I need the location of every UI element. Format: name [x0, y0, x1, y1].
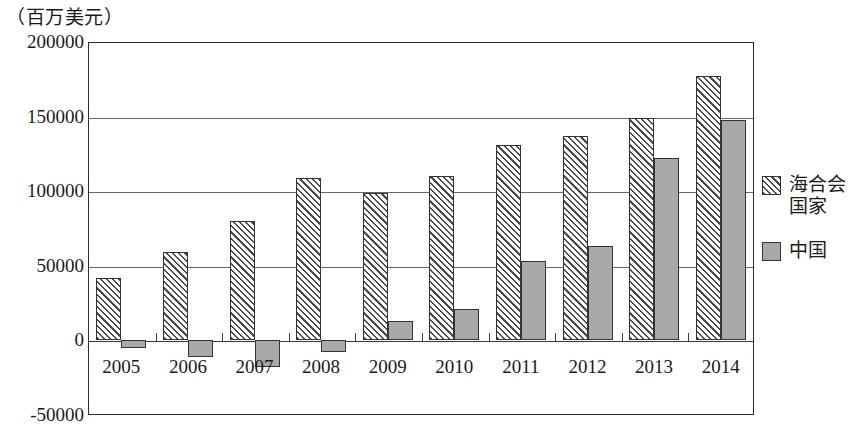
legend-swatch-gcc-icon [762, 176, 781, 195]
gridline [89, 118, 753, 119]
y-axis-tick-label: 100000 [0, 181, 84, 200]
x-axis-tick-label: 2012 [554, 357, 621, 376]
x-axis-tick-mark [289, 333, 290, 341]
zero-baseline [89, 341, 753, 342]
x-axis-tick-mark [688, 333, 689, 341]
x-axis-tick-label: 2007 [221, 357, 288, 376]
chart-legend: 海合会国家中国 [762, 174, 866, 284]
x-axis-tick-label: 2006 [155, 357, 222, 376]
x-axis-tick-label: 2013 [621, 357, 688, 376]
x-axis-tick-label: 2005 [88, 357, 155, 376]
x-axis-tick-mark [555, 333, 556, 341]
y-axis-tick-label: 150000 [0, 107, 84, 126]
legend-swatch-china-icon [762, 242, 781, 261]
x-axis-tick-label: 2009 [354, 357, 421, 376]
x-axis-tick-label: 2010 [421, 357, 488, 376]
x-axis-tick-label: 2011 [488, 357, 555, 376]
x-axis-tick-mark [422, 333, 423, 341]
y-axis-unit-title: （百万美元） [6, 2, 123, 29]
legend-entry: 中国 [762, 240, 866, 262]
x-axis-tick-label: 2008 [288, 357, 355, 376]
y-axis-tick-label: -50000 [0, 405, 84, 424]
x-axis-tick-mark [222, 333, 223, 341]
bar-chart: （百万美元） 200000150000100000500000-50000 20… [0, 0, 867, 424]
gridline [89, 192, 753, 193]
x-axis-tick-mark [622, 333, 623, 341]
x-axis-tick-mark [156, 333, 157, 341]
x-axis-tick-mark [355, 333, 356, 341]
legend-label: 海合会国家 [789, 174, 859, 218]
gridline [89, 267, 753, 268]
y-axis-tick-label: 200000 [0, 32, 84, 51]
y-axis-tick-label: 0 [0, 330, 84, 349]
x-axis-tick-mark [489, 333, 490, 341]
y-axis-tick-label: 50000 [0, 256, 84, 275]
legend-label: 中国 [789, 240, 827, 262]
legend-entry: 海合会国家 [762, 174, 866, 218]
x-axis-tick-label: 2014 [687, 357, 754, 376]
